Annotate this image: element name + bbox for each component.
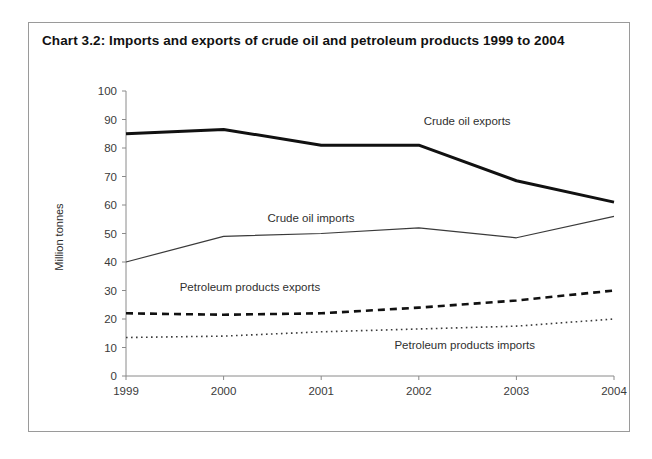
y-tick-label: 50 [83,228,117,240]
series-line [126,319,614,338]
x-tick-label: 2000 [194,385,254,397]
series-label: Crude oil imports [268,212,355,224]
x-tick-label: 2002 [389,385,449,397]
y-tick-label: 0 [83,370,117,382]
screenshot-page: Chart 3.2: Imports and exports of crude … [0,0,652,459]
x-tick-label: 2001 [291,385,351,397]
chart-frame: Chart 3.2: Imports and exports of crude … [28,22,630,432]
y-tick-label: 70 [83,171,117,183]
x-tick-label: 2004 [584,385,644,397]
y-tick-label: 20 [83,313,117,325]
x-tick-label: 1999 [96,385,156,397]
series-label: Petroleum products exports [180,281,321,293]
series-line [126,129,614,202]
y-tick-label: 30 [83,285,117,297]
series-label: Crude oil exports [424,115,511,127]
y-tick-label: 60 [83,199,117,211]
series-line [126,216,614,262]
x-tick-label: 2003 [486,385,546,397]
y-tick-label: 90 [83,114,117,126]
y-tick-label: 10 [83,342,117,354]
y-tick-label: 100 [83,85,117,97]
y-tick-label: 40 [83,256,117,268]
series-line [126,291,614,315]
plot-area: Million tonnes 0102030405060708090100199… [29,23,631,433]
series-label: Petroleum products imports [394,339,535,351]
line-chart-svg [29,23,631,433]
y-tick-label: 80 [83,142,117,154]
